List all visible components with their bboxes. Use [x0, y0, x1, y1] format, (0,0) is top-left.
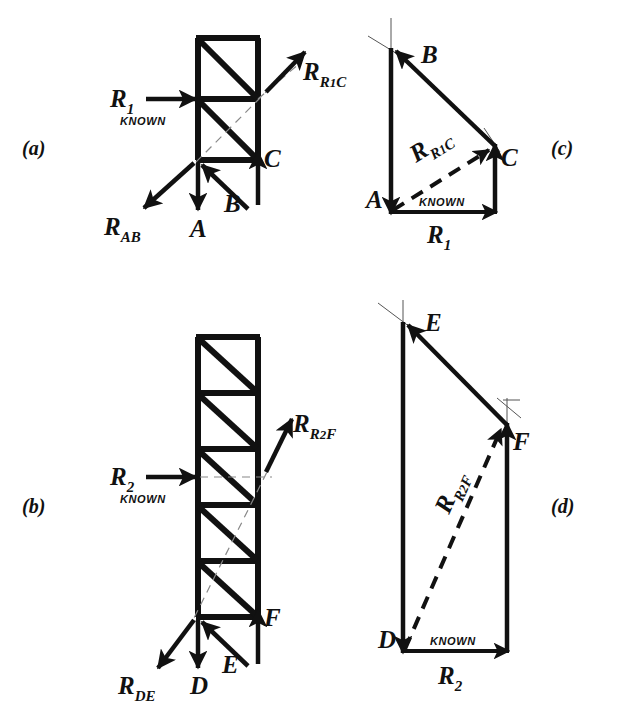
polygon-c-label-known: KNOWN	[419, 196, 465, 208]
polygon-c-label-A: A	[364, 186, 383, 213]
polygon-c-label-B: B	[420, 41, 438, 68]
label-force-A: A	[188, 215, 207, 242]
polygon-c-label-C: C	[501, 144, 518, 171]
truss-force-figure: R1 KNOWN RR1C RAB A B C (a) A KNOWN R1	[0, 0, 633, 716]
polygon-d-label-F: F	[512, 428, 530, 455]
figure-root: R1 KNOWN RR1C RAB A B C (a) A KNOWN R1	[0, 0, 633, 716]
polygon-d-label-D: D	[377, 626, 396, 653]
label-force-C: C	[264, 145, 281, 172]
label-force-E: E	[221, 651, 239, 678]
label-force-D: D	[189, 672, 208, 699]
label-known-upper: KNOWN	[120, 115, 166, 127]
label-force-B: B	[223, 190, 241, 217]
label-force-F: F	[263, 604, 281, 631]
panel-label-c: (c)	[551, 137, 573, 160]
label-known-lower: KNOWN	[120, 493, 166, 505]
panel-label-d: (d)	[551, 495, 574, 518]
polygon-d-label-known: KNOWN	[430, 635, 476, 647]
figure-background	[0, 0, 633, 716]
panel-label-b: (b)	[22, 495, 45, 518]
panel-label-a: (a)	[22, 137, 45, 160]
polygon-d-label-E: E	[424, 309, 442, 336]
